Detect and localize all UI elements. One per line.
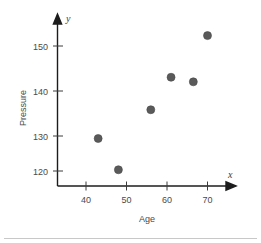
y-tick-label-140: 140 [33, 87, 48, 97]
y-axis-arrowhead [53, 14, 61, 24]
x-axis-symbol: x [227, 169, 233, 180]
data-point [167, 73, 175, 81]
scatter-plot-figure: 150 140 130 120 40 50 60 70 Age Pressure… [0, 0, 261, 243]
y-axis-symbol: y [65, 13, 71, 24]
data-point [94, 135, 102, 143]
plot-canvas: 150 140 130 120 40 50 60 70 Age Pressure… [0, 0, 261, 243]
data-point [114, 166, 122, 174]
data-point-group [94, 32, 211, 174]
axes-group [53, 14, 236, 190]
x-tick-label-40: 40 [81, 195, 91, 205]
x-tick-label-60: 60 [162, 195, 172, 205]
data-point [189, 78, 197, 86]
y-tick-label-130: 130 [33, 132, 48, 142]
x-axis-arrowhead [226, 182, 236, 190]
y-tick-label-120: 120 [33, 167, 48, 177]
x-tick-label-50: 50 [121, 195, 131, 205]
x-tick-label-70: 70 [202, 195, 212, 205]
data-point [147, 106, 155, 114]
y-axis-label: Pressure [18, 90, 28, 126]
x-axis-tick-labels: 40 50 60 70 [81, 195, 213, 205]
data-point [204, 32, 212, 40]
y-axis-tick-labels: 150 140 130 120 [33, 42, 48, 177]
y-tick-label-150: 150 [33, 42, 48, 52]
x-axis-label: Age [139, 214, 155, 224]
